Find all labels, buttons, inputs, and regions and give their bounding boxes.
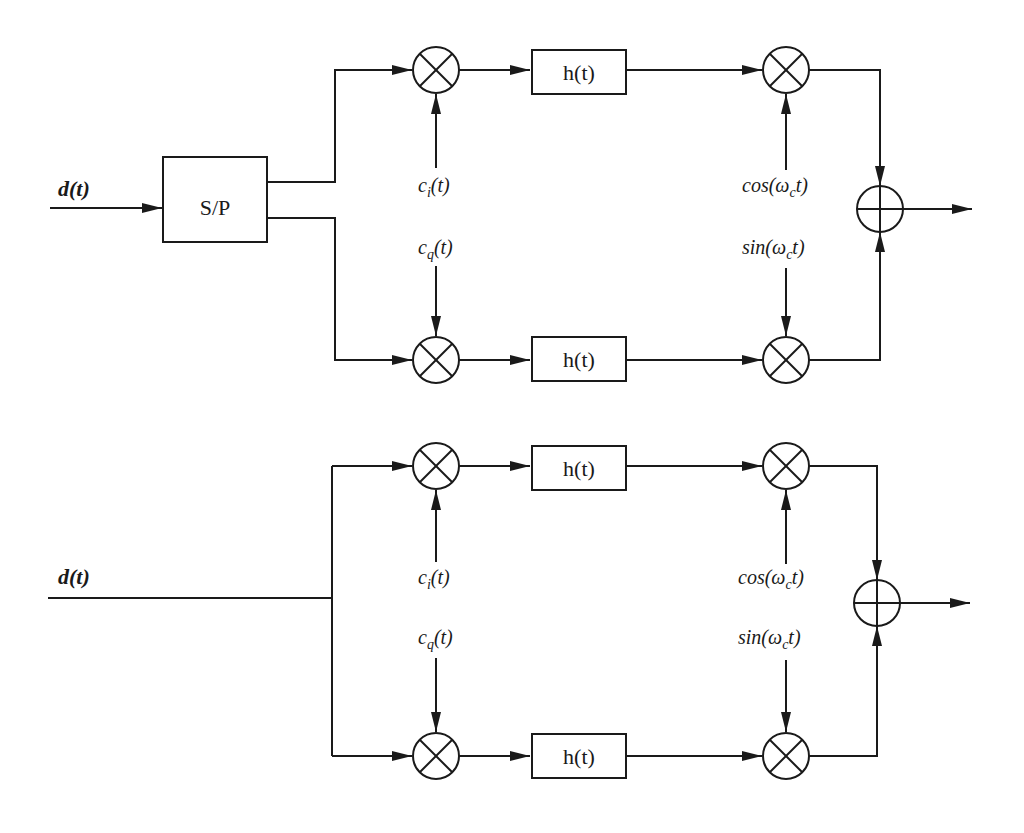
input-label: d(t) bbox=[58, 564, 90, 589]
multiplier-icon bbox=[763, 337, 809, 383]
multiplier-icon bbox=[763, 733, 809, 779]
code-i-label: ci(t) bbox=[418, 566, 450, 592]
input-label: d(t) bbox=[58, 176, 90, 201]
filter-lower-label: h(t) bbox=[563, 347, 595, 372]
multiplier-icon bbox=[413, 47, 459, 93]
top-diagram: d(t) S/P ci(t) h(t) cos(ωct) bbox=[50, 47, 972, 383]
sin-to-summer bbox=[809, 232, 880, 360]
sin-to-summer bbox=[809, 626, 877, 756]
sp-lower-output bbox=[267, 218, 412, 360]
summer-icon bbox=[854, 580, 900, 626]
multiplier-icon bbox=[413, 443, 459, 489]
filter-upper-label: h(t) bbox=[563, 60, 595, 85]
summer-icon bbox=[857, 186, 903, 232]
filter-upper-label: h(t) bbox=[563, 456, 595, 481]
multiplier-icon bbox=[763, 47, 809, 93]
cos-label: cos(ωct) bbox=[738, 566, 804, 592]
sp-upper-output bbox=[267, 70, 412, 182]
bottom-diagram: d(t) ci(t) h(t) cos(ωct) bbox=[48, 443, 970, 779]
block-diagram: d(t) S/P ci(t) h(t) cos(ωct) bbox=[0, 0, 1024, 833]
code-q-label: cq(t) bbox=[418, 626, 453, 652]
code-i-label: ci(t) bbox=[418, 174, 450, 200]
code-q-label: cq(t) bbox=[418, 236, 453, 262]
multiplier-icon bbox=[413, 337, 459, 383]
multiplier-icon bbox=[413, 733, 459, 779]
multiplier-icon bbox=[763, 443, 809, 489]
cos-to-summer bbox=[809, 70, 880, 186]
sp-box-label: S/P bbox=[200, 195, 231, 220]
cos-to-summer bbox=[809, 466, 877, 580]
cos-label: cos(ωct) bbox=[742, 174, 808, 200]
sin-label: sin(ωct) bbox=[742, 236, 805, 262]
sin-label: sin(ωct) bbox=[738, 626, 801, 652]
filter-lower-label: h(t) bbox=[563, 744, 595, 769]
